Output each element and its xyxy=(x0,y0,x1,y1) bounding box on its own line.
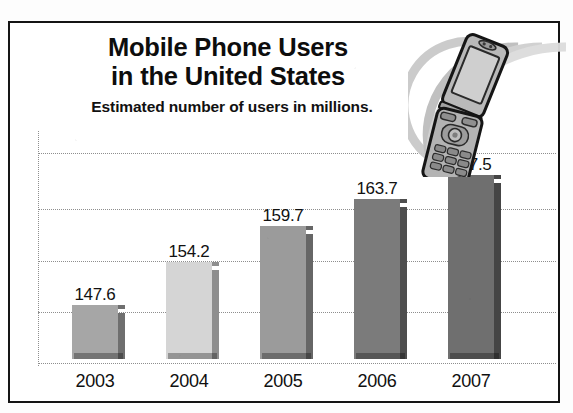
bar-top xyxy=(166,262,219,266)
chart-subtitle: Estimated number of users in millions. xyxy=(28,98,436,116)
chart-title: Mobile Phone Users in the United States xyxy=(28,33,428,91)
bar-face xyxy=(448,179,494,359)
bar-base-shadow xyxy=(74,353,123,359)
bar-2007 xyxy=(448,179,494,359)
bar-base-shadow xyxy=(356,353,405,359)
bar-2003 xyxy=(72,309,118,359)
flip-phone-icon xyxy=(408,25,566,177)
category-label-2003: 2003 xyxy=(54,371,136,392)
value-label-2003: 147.6 xyxy=(54,285,136,305)
bar-face xyxy=(354,203,400,359)
value-label-2005: 159.7 xyxy=(242,206,324,226)
bar-base-shadow xyxy=(262,353,311,359)
axis-baseline xyxy=(38,363,556,364)
bar-face xyxy=(166,266,212,359)
bar-top xyxy=(260,226,313,230)
bar-side xyxy=(494,183,501,359)
value-label-2004: 154.2 xyxy=(148,242,230,262)
category-label-2005: 2005 xyxy=(242,371,324,392)
bar-2005 xyxy=(260,230,306,359)
title-line-2: in the United States xyxy=(28,62,428,91)
bar-side xyxy=(400,207,407,359)
bar-base-shadow xyxy=(450,353,499,359)
bar-2006 xyxy=(354,203,400,359)
scanned-page: 147.6154.2159.7163.7167.5 20032004200520… xyxy=(0,0,573,413)
chart-frame: 147.6154.2159.7163.7167.5 20032004200520… xyxy=(8,21,560,403)
y-axis-line xyxy=(38,131,39,366)
bar-top xyxy=(72,305,125,309)
bar-top xyxy=(354,199,407,203)
bar-side xyxy=(306,234,313,359)
category-label-2004: 2004 xyxy=(148,371,230,392)
bar-base-shadow xyxy=(168,353,217,359)
bar-face xyxy=(260,230,306,359)
bar-face xyxy=(72,309,118,359)
category-label-2007: 2007 xyxy=(430,371,512,392)
title-line-1: Mobile Phone Users xyxy=(28,33,428,62)
value-label-2006: 163.7 xyxy=(336,179,418,199)
bar-side xyxy=(212,270,219,359)
category-label-2006: 2006 xyxy=(336,371,418,392)
bar-2004 xyxy=(166,266,212,359)
